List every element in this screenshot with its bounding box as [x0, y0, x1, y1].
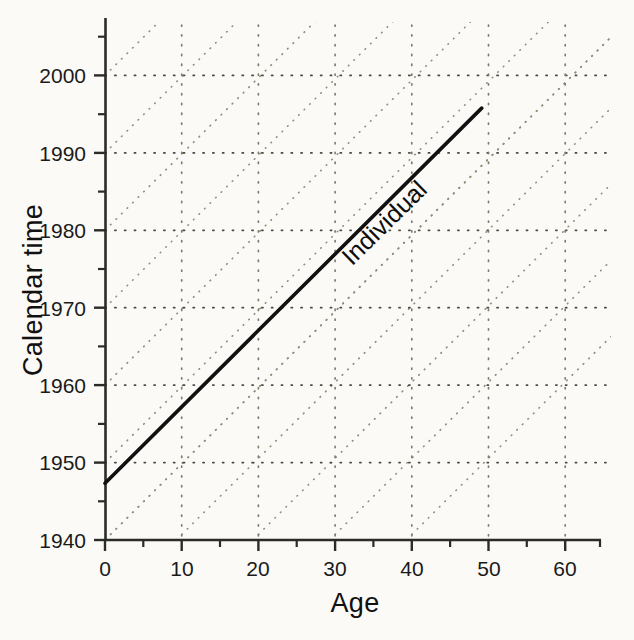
x-tick-label-20: 20 [246, 558, 269, 579]
y-axis-title: Calendar time [18, 204, 49, 376]
right-mask [611, 0, 634, 640]
x-tick-label-60: 60 [553, 558, 576, 579]
x-tick-label-50: 50 [477, 558, 500, 579]
y-tick-label-1950: 1950 [6, 452, 86, 473]
x-tick-label-0: 0 [99, 558, 111, 579]
y-tick-label-1940: 1940 [6, 530, 86, 551]
top-mask [0, 0, 634, 22]
y-tick-label-2000: 2000 [6, 65, 86, 86]
x-axis-title: Age [331, 588, 380, 619]
y-tick-label-1960: 1960 [6, 375, 86, 396]
x-tick-label-10: 10 [170, 558, 193, 579]
chart-plot-area [0, 0, 634, 640]
x-tick-label-30: 30 [323, 558, 346, 579]
x-tick-label-40: 40 [400, 558, 423, 579]
figure-background [0, 0, 634, 640]
y-tick-label-1990: 1990 [6, 143, 86, 164]
lexis-diagram-figure: 1940 1950 1960 1970 1980 1990 2000 0 10 … [0, 0, 634, 640]
